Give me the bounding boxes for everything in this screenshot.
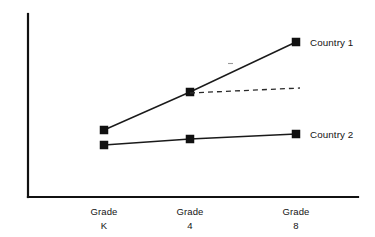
line-chart: Country 1 Country 2 Grade K Grade 4 Grad…: [0, 0, 375, 237]
data-point-marker: [186, 135, 194, 143]
x-tick-label-grade-8-line1: Grade: [283, 206, 310, 217]
data-point-marker: [100, 141, 108, 149]
x-tick-label-grade-8-line2: 8: [293, 220, 298, 231]
series-country-2: [100, 130, 300, 149]
x-tick-label-grade-k-line1: Grade: [91, 206, 118, 217]
chart-container: Country 1 Country 2 Grade K Grade 4 Grad…: [0, 0, 375, 237]
series-country-2-line: [104, 134, 296, 145]
series-label-country-1: Country 1: [310, 37, 353, 48]
series-country-2-markers: [100, 130, 300, 149]
series-country-1-line: [104, 42, 296, 130]
x-axis-tick-labels: Grade K Grade 4 Grade 8: [91, 206, 310, 231]
projection-annotation: [190, 88, 300, 93]
x-tick-label-grade-4-line2: 4: [187, 220, 192, 231]
series-country-1: [100, 38, 300, 134]
data-point-marker: [186, 88, 194, 96]
data-point-marker: [292, 38, 300, 46]
x-tick-label-grade-k-line2: K: [101, 220, 108, 231]
series-label-country-2: Country 2: [310, 129, 353, 140]
x-tick-label-grade-4-line1: Grade: [177, 206, 204, 217]
series-country-1-markers: [100, 38, 300, 134]
chart-axes: [28, 14, 358, 197]
projection-trend-line: [190, 88, 300, 93]
data-point-marker: [292, 130, 300, 138]
data-point-marker: [100, 126, 108, 134]
